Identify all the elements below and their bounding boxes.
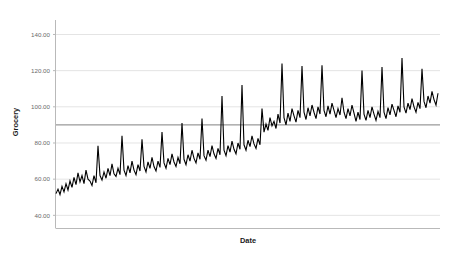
y-axis-tick-label: 40.00 [35, 212, 51, 219]
y-axis-tick-label: 60.00 [35, 175, 51, 182]
x-axis-title: Date [240, 236, 256, 245]
y-axis-tick-label: 80.00 [35, 139, 51, 146]
grocery-time-series-chart: 140.00120.00100.0080.0060.0040.00 Grocer… [0, 0, 452, 260]
y-axis-title: Grocery [11, 107, 20, 136]
chart-container: 140.00120.00100.0080.0060.0040.00 Grocer… [0, 0, 452, 260]
y-axis-tick-label: 120.00 [31, 67, 50, 74]
y-axis-tick-label: 100.00 [31, 103, 50, 110]
y-axis-tick-label: 140.00 [31, 31, 50, 38]
chart-background [0, 0, 452, 260]
